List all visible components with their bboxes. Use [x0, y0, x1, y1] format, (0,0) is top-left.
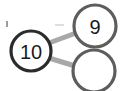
part-node-bottom-circle: [73, 50, 115, 91]
diagram-canvas: 9 10: [0, 0, 122, 91]
part-node-top-label: 9: [89, 16, 100, 38]
part-node-top[interactable]: 9: [74, 5, 116, 47]
link-whole-to-top: [49, 33, 76, 43]
link-whole-to-bottom: [49, 58, 75, 66]
number-bond-diagram: 9 10: [0, 0, 122, 91]
part-node-bottom[interactable]: [73, 50, 115, 91]
whole-node[interactable]: 10: [11, 31, 51, 71]
faint-smudge: [55, 24, 64, 26]
whole-node-label: 10: [20, 41, 42, 63]
stray-tick-mark: [6, 21, 8, 27]
